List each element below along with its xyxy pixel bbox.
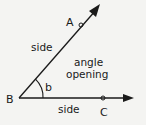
label-point-b: B <box>6 93 14 106</box>
angle-diagram-svg: A B C b side side angle opening <box>0 0 146 125</box>
label-opening-line2: opening <box>66 68 108 80</box>
ray-ba <box>19 10 96 98</box>
label-point-c: C <box>100 106 108 119</box>
arrowhead-right-icon <box>123 94 134 102</box>
label-opening-line1: angle <box>74 56 103 68</box>
label-lower-side: side <box>58 103 80 115</box>
label-upper-side: side <box>31 41 53 53</box>
label-point-a: A <box>66 16 74 29</box>
label-angle-b: b <box>45 81 52 94</box>
angle-diagram: A B C b side side angle opening <box>0 0 146 125</box>
arrowhead-up-icon <box>89 4 100 17</box>
angle-arc <box>36 79 44 98</box>
